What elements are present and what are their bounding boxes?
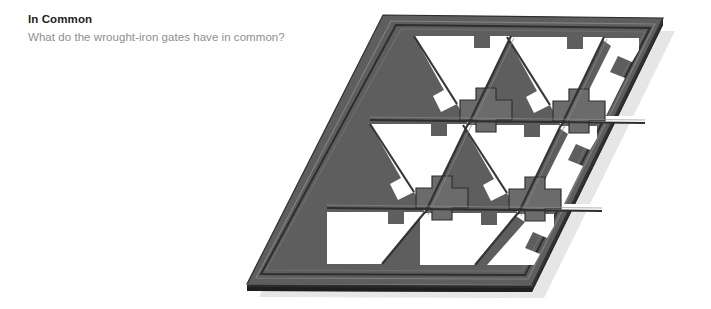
page-root: In Common What do the wrought-iron gates… [0,0,711,309]
gate-illustration [228,0,698,309]
gate-panel-svg [228,0,698,309]
